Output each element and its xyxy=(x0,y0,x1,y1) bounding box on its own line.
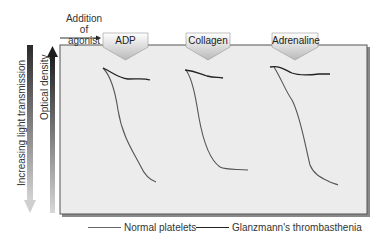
agonist-label-adp: ADP xyxy=(103,35,148,46)
legend-glanzmann-label: Glanzmann's thrombasthenia xyxy=(232,222,362,233)
agonist-label-adrenaline: Adrenaline xyxy=(272,35,318,46)
addition-label-line1: Addition xyxy=(64,13,104,24)
legend-glanzmann: Glanzmann's thrombasthenia xyxy=(196,222,362,233)
legend-normal-swatch xyxy=(88,227,121,228)
legend-glanzmann-swatch xyxy=(196,227,229,228)
light-transmission-label: Increasing light transmission xyxy=(16,60,27,186)
addition-label-line2: of agonist xyxy=(64,24,104,46)
agonist-label-collagen: Collagen xyxy=(186,35,230,46)
legend-normal-label: Normal platelets xyxy=(124,222,196,233)
addition-label: Addition of agonist xyxy=(64,13,104,46)
legend-normal: Normal platelets xyxy=(88,222,196,233)
optical-density-label: Optical density xyxy=(39,54,50,120)
chart-panel xyxy=(60,45,367,214)
